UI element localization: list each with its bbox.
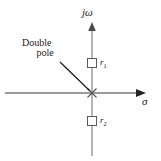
double-pole-annotation: Double pole (22, 38, 68, 58)
real-axis-label: σ (142, 96, 147, 107)
residue-square-r2-icon (88, 117, 97, 126)
double-pole-annotation-line2: pole (22, 48, 68, 58)
residue-label-r2-subscript: 2 (104, 120, 107, 127)
residue-square-r1-icon (88, 59, 97, 68)
residue-label-r1: r1 (100, 58, 107, 69)
residue-label-r1-subscript: 1 (104, 62, 107, 69)
pole-zero-diagram: jω σ r1 r2 Double pole (0, 0, 161, 161)
diagram-canvas (0, 0, 161, 161)
imaginary-axis-arrow-icon (88, 22, 96, 31)
residue-label-r2: r2 (100, 116, 107, 127)
annotation-leader-line (60, 62, 90, 91)
imaginary-axis-label: jω (82, 7, 93, 18)
